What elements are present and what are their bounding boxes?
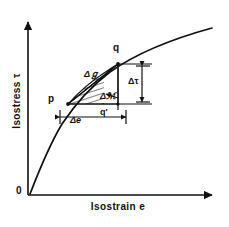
point-p-marker	[66, 102, 70, 106]
y-axis-label: Isostress τ	[12, 53, 22, 149]
stress-strain-figure: Isostress τ Isostrain e 0 p q q' Δℊ Δℳ Δ…	[0, 0, 229, 227]
delta-strain-label: Δe	[70, 116, 81, 125]
point-p-label: p	[48, 94, 54, 104]
delta-stress-label: Δτ	[128, 77, 139, 86]
figure-canvas	[0, 0, 229, 227]
point-q-label: q	[113, 43, 119, 53]
delta-gibbs-label: Δℊ	[84, 70, 99, 79]
delta-area-label: Δℳ	[100, 92, 116, 101]
stress-strain-curve	[30, 28, 212, 194]
point-qprime-marker	[116, 102, 119, 105]
origin-label: 0	[16, 186, 22, 196]
point-q-prime-label: q'	[100, 108, 108, 117]
point-q-marker	[116, 62, 120, 66]
x-axis-label: Isostrain e	[56, 202, 180, 212]
